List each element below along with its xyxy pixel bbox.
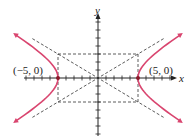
x-axis-label: x <box>178 72 184 84</box>
y-axis-label: y <box>94 4 100 16</box>
vertex-point <box>56 76 60 80</box>
vertex-point <box>136 76 140 80</box>
vertex-label-right: (5, 0) <box>149 64 173 77</box>
hyperbola-chart: x y (−5, 0) (5, 0) <box>0 0 193 139</box>
vertex-label-left: (−5, 0) <box>13 64 43 77</box>
x-axis-arrow <box>171 76 177 81</box>
